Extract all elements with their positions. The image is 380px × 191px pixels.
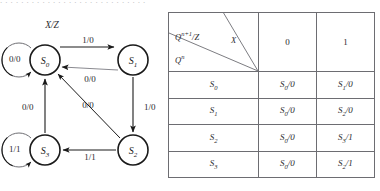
table-row-state-label: S1 <box>169 98 259 125</box>
table-cell-next-on-1: S2/0 <box>317 98 375 125</box>
header-next-state-output-label: Qn+1/Z <box>175 30 199 42</box>
notation-label: X/Z <box>44 20 59 30</box>
table-row: S3 S0/0 S2/1 <box>169 151 375 178</box>
table-row: S0 S0/0 S1/0 <box>169 72 375 99</box>
cropped-header-text: . . . . . . . . . . . . . . . . . . . . … <box>0 0 380 9</box>
edge-label-s0-s1: 1/0 <box>82 35 94 45</box>
cropped-header-text-label: . . . . . . . . . . . . . . . . . . . . … <box>0 0 146 5</box>
header-current-state-label: Qn <box>175 53 184 65</box>
table-header-split-cell: Qn+1/Z X Qn <box>169 13 259 72</box>
table-cell-next-on-1: S2/1 <box>317 151 375 178</box>
edge-s1-s0 <box>62 67 118 70</box>
table-row-state-label: S0 <box>169 72 259 99</box>
edge-label-self-loop-s0: 0/0 <box>9 54 21 64</box>
edge-label-s1-s2: 1/0 <box>144 102 156 112</box>
edge-label-s2-s3: 1/1 <box>84 152 96 162</box>
table-cell-next-on-0: S0/0 <box>259 72 317 99</box>
table-cell-next-on-0: S0/0 <box>259 125 317 152</box>
table-cell-next-on-0: S0/0 <box>259 98 317 125</box>
state-diagram: S0 S1 S2 S3 X/Z 0/0 1/1 1/0 0/0 1/0 0/0 … <box>0 10 168 191</box>
state-transition-table: Qn+1/Z X Qn 0 1 S0 S0/0 S1/0 S1 S0/0 S2/… <box>168 12 375 178</box>
state-diagram-canvas: S0 S1 S2 S3 X/Z 0/0 1/1 1/0 0/0 1/0 0/0 … <box>0 10 168 191</box>
table-header-row: Qn+1/Z X Qn 0 1 <box>169 13 375 72</box>
table-column-header-1: 1 <box>317 13 375 72</box>
table-row-state-label: S2 <box>169 125 259 152</box>
edge-label-self-loop-s3: 1/1 <box>9 144 21 154</box>
edge-label-s3-s0: 0/0 <box>22 102 34 112</box>
state-transition-table-wrapper: Qn+1/Z X Qn 0 1 S0 S0/0 S1/0 S1 S0/0 S2/… <box>168 12 374 178</box>
table-row: S1 S0/0 S2/0 <box>169 98 375 125</box>
table-cell-next-on-0: S0/0 <box>259 151 317 178</box>
table-row-state-label: S3 <box>169 151 259 178</box>
table-row: S2 S0/0 S3/1 <box>169 125 375 152</box>
edge-label-s1-s0: 0/0 <box>84 74 96 84</box>
edge-label-s2-s0: 0/0 <box>82 100 94 110</box>
table-cell-next-on-1: S1/0 <box>317 72 375 99</box>
header-input-label: X <box>231 35 236 45</box>
page-root: . . . . . . . . . . . . . . . . . . . . … <box>0 0 380 191</box>
table-column-header-0: 0 <box>259 13 317 72</box>
table-cell-next-on-1: S3/1 <box>317 125 375 152</box>
